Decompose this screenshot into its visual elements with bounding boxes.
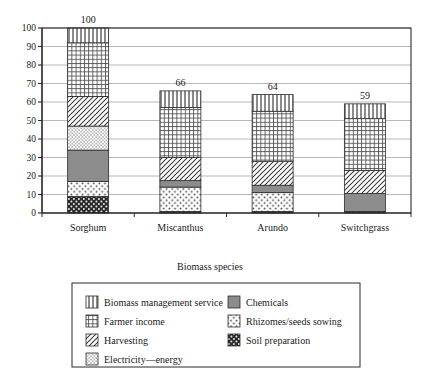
bar-segment [160, 91, 201, 108]
bar-segment [160, 158, 201, 181]
y-tick-label: 80 [27, 60, 37, 70]
y-tick-label: 50 [27, 116, 37, 126]
x-category-label: Arundo [257, 222, 288, 233]
y-tick-label: 60 [27, 97, 37, 107]
y-tick-label: 100 [22, 23, 37, 33]
bar-total-label: 59 [360, 90, 370, 101]
bar-segment [160, 181, 201, 187]
bar-segment [344, 194, 385, 212]
legend-label: Electricity—energy [104, 354, 183, 365]
bar-segment [68, 28, 109, 43]
bar-segment [252, 95, 293, 112]
bar-segment [252, 161, 293, 185]
bar-segment [68, 150, 109, 181]
legend: Biomass management serviceFarmer incomeH… [72, 283, 360, 367]
legend-swatch [86, 334, 98, 346]
legend-swatch [228, 296, 240, 308]
y-tick-label: 90 [27, 42, 37, 52]
legend-label: Chemicals [246, 297, 288, 308]
y-tick-label: 20 [27, 171, 37, 181]
bar-segment [252, 111, 293, 161]
y-tick-label: 70 [27, 79, 37, 89]
bar-segment [160, 108, 201, 158]
bar-segment [252, 185, 293, 192]
y-tick-label: 0 [31, 208, 36, 218]
stacked-bar-chart: 0102030405060708090100 SorghumMiscanthus… [0, 0, 421, 381]
legend-swatch [228, 334, 240, 346]
y-tick-label: 10 [27, 190, 37, 200]
legend-swatch [86, 296, 98, 308]
legend-swatch [86, 315, 98, 327]
legend-label: Farmer income [104, 316, 165, 327]
x-axis-title: Biomass species [177, 261, 243, 272]
x-category-label: Miscanthus [157, 222, 203, 233]
legend-label: Harvesting [104, 335, 148, 346]
bar-segment [68, 126, 109, 150]
legend-swatch [228, 315, 240, 327]
bar-total-label: 66 [175, 77, 185, 88]
bar-segment [160, 187, 201, 211]
bar-segment [68, 43, 109, 97]
x-category-label: Switchgrass [341, 222, 389, 233]
chart-figure: 0102030405060708090100 SorghumMiscanthus… [0, 0, 421, 381]
bar-total-label: 100 [81, 14, 96, 25]
legend-label: Biomass management service [104, 297, 223, 308]
x-category-label: Sorghum [70, 222, 107, 233]
bar-segment [68, 182, 109, 197]
legend-label: Rhizomes/seeds sowing [246, 316, 342, 327]
y-tick-label: 40 [27, 134, 37, 144]
legend-label: Soil preparation [246, 335, 310, 346]
bar-segment [68, 196, 109, 213]
y-tick-label: 30 [27, 153, 37, 163]
bar-segment [344, 119, 385, 171]
bar-segment [344, 104, 385, 119]
bar-segment [252, 193, 293, 212]
bar-segment [68, 96, 109, 126]
bar-total-label: 64 [268, 81, 278, 92]
bar-segment [344, 170, 385, 193]
legend-swatch [86, 353, 98, 365]
